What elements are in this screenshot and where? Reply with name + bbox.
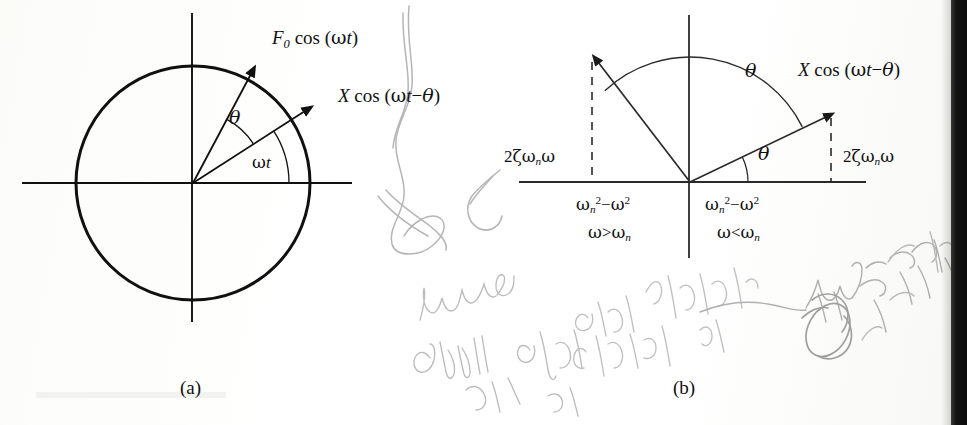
panel-b-theta-arc-lower [742, 157, 748, 182]
condition-label-right: ω<ωn [717, 224, 760, 243]
scan-edge-shadow [941, 0, 951, 425]
panel-b-caption: (b) [673, 378, 695, 397]
panel-a-caption: (a) [180, 378, 201, 397]
stiffness-label-right: ωn2−ω2 [705, 195, 759, 215]
damping-label-right: 2ζωnω [843, 148, 894, 167]
panel-a-theta-label: θ [229, 108, 240, 127]
figure-page: F0 cos (ωt) X cos (ωt−θ) θ ωt (a) 2ζωnω … [0, 0, 967, 425]
left-response-vector-arrow [598, 62, 690, 182]
pencil-loop-circle [797, 294, 859, 364]
panel-a-response-vector-label: X cos (ωt−θ) [338, 86, 440, 105]
force-vector-label: F0 cos (ωt) [272, 28, 358, 50]
pencil-handwriting-row2 [574, 268, 758, 376]
condition-label-left: ω>ωn [588, 224, 631, 243]
pencil-handwriting-row1 [414, 275, 582, 416]
damping-label-left: 2ζωnω [504, 148, 555, 167]
omega-t-arc [274, 131, 290, 183]
panel-b-theta-label-upper: θ [745, 61, 756, 80]
panel-b-response-vector-label: X cos (ωt−θ) [798, 60, 900, 79]
panel-b-major-arc [605, 57, 803, 127]
scan-edge-dark-band [951, 0, 967, 425]
panel-b-theta-label-lower: θ [758, 144, 769, 163]
force-vector-arrow [193, 74, 251, 183]
panel-a-omega-t-label: ωt [252, 154, 271, 171]
pencil-annotation-group [378, 6, 502, 254]
stiffness-label-left: ωn2−ω2 [576, 195, 630, 215]
